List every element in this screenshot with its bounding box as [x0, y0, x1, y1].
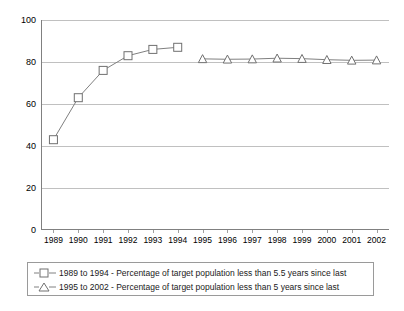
data-series: [198, 54, 380, 64]
square-marker-icon: [74, 94, 82, 102]
x-tick-mark: [103, 230, 104, 233]
x-tick-mark: [302, 230, 303, 233]
x-tick-mark: [203, 230, 204, 233]
square-marker-icon: [34, 267, 56, 279]
square-marker-icon: [149, 45, 157, 53]
x-tick-mark: [327, 230, 328, 233]
y-tick-label: 0: [2, 226, 36, 235]
x-tick-mark: [277, 230, 278, 233]
x-axis: 1989199019911992199319941995199619971998…: [41, 234, 389, 248]
x-tick-mark: [252, 230, 253, 233]
square-marker-icon: [99, 66, 107, 74]
x-tick-mark: [227, 230, 228, 233]
series-layer: [41, 20, 389, 230]
data-series: [49, 43, 181, 143]
x-tick-mark: [377, 230, 378, 233]
x-tick-mark: [78, 230, 79, 233]
x-tick-mark: [128, 230, 129, 233]
y-tick-label: 80: [2, 58, 36, 67]
y-tick-label: 20: [2, 184, 36, 193]
x-tick-mark: [352, 230, 353, 233]
square-marker-icon: [124, 52, 132, 60]
x-tick-label: 2002: [357, 234, 397, 246]
y-tick-label: 60: [2, 100, 36, 109]
legend-item-label: 1995 to 2002 - Percentage of target popu…: [59, 282, 339, 292]
series-line: [53, 47, 177, 139]
chart-figure: 020406080100 198919901991199219931994199…: [0, 0, 404, 311]
x-tick-mark: [153, 230, 154, 233]
legend-item-label: 1989 to 1994 - Percentage of target popu…: [59, 268, 346, 278]
y-tick-label: 100: [2, 16, 36, 25]
y-axis: 020406080100: [0, 0, 36, 231]
legend-item[interactable]: 1989 to 1994 - Percentage of target popu…: [34, 266, 346, 280]
y-tick-label: 40: [2, 142, 36, 151]
square-marker-icon: [49, 136, 57, 144]
triangle-marker-icon: [34, 281, 56, 293]
legend-item[interactable]: 1995 to 2002 - Percentage of target popu…: [34, 280, 339, 294]
chart-legend: 1989 to 1994 - Percentage of target popu…: [27, 262, 374, 296]
x-tick-mark: [53, 230, 54, 233]
x-tick-mark: [178, 230, 179, 233]
plot-area: [41, 20, 389, 230]
square-marker-icon: [174, 43, 182, 51]
